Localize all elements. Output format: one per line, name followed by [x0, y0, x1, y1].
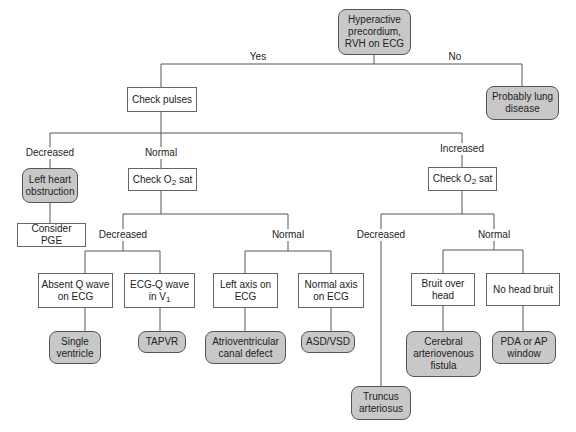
node-left-heart-obstruction: Left heart obstruction — [22, 168, 78, 203]
ecg-q-pre: ECG-Q wave in V — [130, 279, 189, 302]
node-pda-ap-window: PDA or AP window — [492, 331, 556, 364]
node-cerebral-avf: Cerebral arteriovenous fistula — [406, 331, 481, 377]
node-asd-vsd: ASD/VSD — [301, 331, 355, 353]
node-single-ventricle-text: Single ventricle — [52, 336, 98, 360]
node-normal-axis-text: Normal axis on ECG — [301, 279, 361, 303]
o2a-pre: Check O — [133, 174, 172, 185]
edge-label-o2a-decreased: Decreased — [97, 229, 149, 241]
o2a-post: sat — [176, 174, 192, 185]
node-av-canal-text: Atrioventricular canal defect — [208, 336, 283, 360]
node-av-canal-defect: Atrioventricular canal defect — [205, 331, 286, 364]
edge-label-no: No — [447, 51, 464, 63]
node-ecg-q-text: ECG-Q wave in V1 — [127, 279, 192, 303]
node-bruit-text: Bruit over head — [414, 278, 472, 302]
edge-label-o2b-normal: Normal — [476, 229, 512, 241]
node-left-heart-text: Left heart obstruction — [25, 174, 75, 198]
node-ecg-q-wave-v1: ECG-Q wave in V1 — [124, 273, 195, 308]
node-truncus-text: Truncus arteriosus — [354, 391, 408, 415]
node-probably-lung-disease: Probably lung disease — [486, 86, 559, 120]
node-lung-text: Probably lung disease — [489, 91, 556, 115]
edge-label-pulses-increased: Increased — [438, 143, 486, 155]
connector-lines — [0, 0, 576, 432]
ecg-q-sub: 1 — [166, 295, 170, 304]
node-normal-axis: Normal axis on ECG — [298, 273, 364, 308]
node-check-pulses-text: Check pulses — [132, 94, 192, 106]
node-pda-text: PDA or AP window — [495, 336, 553, 360]
node-consider-pge-text: Consider PGE — [20, 223, 83, 247]
node-consider-pge: Consider PGE — [17, 223, 86, 247]
edge-label-pulses-decreased: Decreased — [24, 147, 76, 159]
node-check-o2-sat-increased-pulses: Check O2 sat — [428, 167, 497, 191]
node-check-o2-a-text: Check O2 sat — [133, 174, 192, 186]
edge-label-pulses-normal: Normal — [143, 147, 179, 159]
node-check-pulses: Check pulses — [127, 87, 197, 112]
node-absent-q-text: Absent Q wave on ECG — [41, 279, 110, 303]
node-left-axis: Left axis on ECG — [213, 273, 278, 308]
node-no-bruit-text: No head bruit — [493, 284, 553, 296]
node-root: Hyperactive precordium, RVH on ECG — [338, 9, 411, 55]
node-truncus-arteriosus: Truncus arteriosus — [351, 386, 411, 420]
node-no-head-bruit: No head bruit — [486, 273, 560, 306]
node-left-axis-text: Left axis on ECG — [216, 279, 275, 303]
node-cerebral-avf-text: Cerebral arteriovenous fistula — [409, 336, 478, 372]
edge-label-yes: Yes — [248, 51, 268, 63]
node-check-o2-sat-normal-pulses: Check O2 sat — [128, 168, 197, 191]
o2b-post: sat — [476, 173, 492, 184]
node-check-o2-b-text: Check O2 sat — [433, 173, 492, 185]
edge-label-o2a-normal: Normal — [270, 229, 306, 241]
node-bruit-over-head: Bruit over head — [411, 273, 475, 306]
node-tapvr-text: TAPVR — [146, 336, 179, 348]
node-single-ventricle: Single ventricle — [49, 331, 101, 364]
node-asd-vsd-text: ASD/VSD — [306, 336, 350, 348]
node-root-text: Hyperactive precordium, RVH on ECG — [341, 14, 408, 50]
o2b-pre: Check O — [433, 173, 472, 184]
edge-label-o2b-decreased: Decreased — [355, 229, 407, 241]
node-tapvr: TAPVR — [138, 331, 186, 353]
node-absent-q-wave: Absent Q wave on ECG — [38, 273, 113, 308]
